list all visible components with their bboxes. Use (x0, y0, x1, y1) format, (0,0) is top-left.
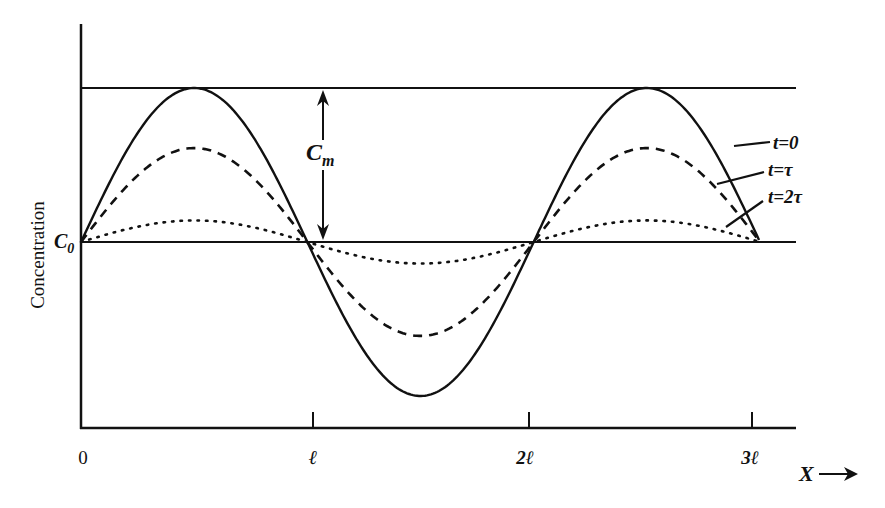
legend-leader-t0 (734, 142, 770, 146)
c0-label: C0 (54, 230, 74, 256)
x-axis-label: X (798, 461, 815, 486)
x-tick-label-l: ℓ (309, 446, 318, 468)
x-tick-label-2l: 2ℓ (515, 447, 534, 468)
legend-label-t-2tau: t=2τ (768, 186, 803, 207)
x-tick-label-0: 0 (78, 447, 88, 468)
cm-label: Cm (306, 139, 334, 169)
x-tick-label-3l: 3ℓ (740, 447, 759, 468)
legend-label-t-tau: t=τ (768, 159, 793, 180)
x-direction-arrow-icon (819, 467, 858, 481)
legend-label-t0: t=0 (773, 132, 799, 153)
y-axis-label: Concentration (27, 201, 48, 309)
legend-leader-t-tau (717, 172, 764, 184)
diffusion-concentration-diagram: Cm C0 Concentration 0 ℓ 2ℓ 3ℓ X t=0 t=τ … (0, 0, 885, 508)
